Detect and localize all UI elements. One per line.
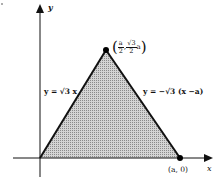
shaded-triangle <box>40 50 180 158</box>
apex-point <box>103 47 109 53</box>
right-vertex-point <box>177 155 183 161</box>
left-line-equation: y = √3 x <box>44 87 77 96</box>
y-axis-label: y <box>48 2 53 12</box>
x-axis-arrow-icon <box>204 154 213 162</box>
x-axis-label: x <box>207 164 212 173</box>
stray-dot <box>1 3 3 5</box>
apex-label: (a2,√32a) <box>112 38 147 56</box>
y-axis-arrow-icon <box>36 4 44 13</box>
right-line-equation: y = −√3 (x −a) <box>143 87 203 96</box>
right-vertex-label: (a, 0) <box>168 165 188 174</box>
